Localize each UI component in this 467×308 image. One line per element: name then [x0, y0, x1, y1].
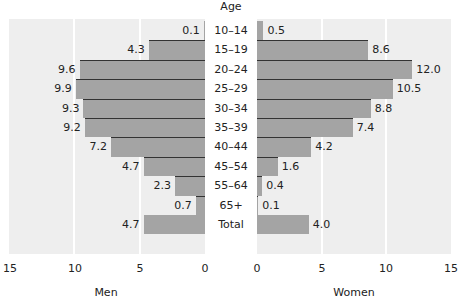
women-bar	[257, 99, 371, 118]
men-bar	[149, 40, 205, 59]
age-axis-title: Age	[205, 0, 257, 14]
women-bar	[257, 21, 263, 40]
women-bar	[257, 60, 412, 79]
men-value-label: 4.3	[127, 40, 145, 59]
x-tick-label-men: 0	[190, 262, 220, 275]
x-tick-label-women: 10	[371, 262, 401, 275]
men-bar	[83, 99, 205, 118]
age-group-label: 35–39	[205, 118, 257, 137]
men-value-label: 4.7	[122, 215, 140, 234]
women-value-label: 4.2	[315, 137, 333, 156]
age-group-label: 30–34	[205, 99, 257, 118]
men-value-label: 2.3	[153, 176, 171, 195]
women-bar	[257, 215, 309, 234]
men-value-label: 7.2	[89, 137, 107, 156]
men-bar	[85, 118, 205, 137]
women-value-label: 1.6	[282, 157, 300, 176]
men-bar	[144, 215, 205, 234]
age-group-label: 10–14	[205, 21, 257, 40]
men-bar	[196, 196, 205, 215]
x-tick-label-women: 15	[436, 262, 466, 275]
age-group-label: 25–29	[205, 79, 257, 98]
men-bar	[144, 157, 205, 176]
women-bar	[257, 196, 258, 215]
men-value-label: 0.7	[174, 196, 192, 215]
women-value-label: 0.4	[266, 176, 284, 195]
age-group-label: Total	[205, 215, 257, 234]
women-bar	[257, 157, 278, 176]
age-group-label: 55–64	[205, 176, 257, 195]
men-bar	[80, 60, 205, 79]
men-axis-title: Men	[66, 286, 146, 299]
men-value-label: 9.9	[54, 79, 72, 98]
women-value-label: 7.4	[357, 118, 375, 137]
x-tick-label-women: 0	[242, 262, 272, 275]
age-group-label: 15–19	[205, 40, 257, 59]
women-axis-title: Women	[314, 286, 394, 299]
x-tick-label-men: 10	[60, 262, 90, 275]
men-value-label: 9.6	[58, 60, 76, 79]
men-bar	[111, 137, 205, 156]
age-group-label: 65+	[205, 196, 257, 215]
women-value-label: 0.5	[267, 21, 285, 40]
women-value-label: 10.5	[397, 79, 422, 98]
men-bar	[76, 79, 205, 98]
women-value-label: 8.8	[375, 99, 393, 118]
men-value-label: 0.1	[182, 21, 200, 40]
women-value-label: 4.0	[313, 215, 331, 234]
age-group-label: 20–24	[205, 60, 257, 79]
women-bar	[257, 176, 262, 195]
men-value-label: 4.7	[122, 157, 140, 176]
men-bar	[175, 176, 205, 195]
women-value-label: 12.0	[416, 60, 441, 79]
women-value-label: 0.1	[262, 196, 280, 215]
x-tick-label-women: 5	[307, 262, 337, 275]
age-group-label: 45–54	[205, 157, 257, 176]
x-tick-label-men: 15	[0, 262, 25, 275]
population-pyramid-chart: Age Men Women 0.10.510–144.38.615–199.61…	[0, 0, 467, 308]
women-bar	[257, 118, 353, 137]
women-bar	[257, 137, 311, 156]
men-value-label: 9.2	[63, 118, 81, 137]
women-value-label: 8.6	[372, 40, 390, 59]
men-value-label: 9.3	[62, 99, 80, 118]
women-bar	[257, 40, 368, 59]
x-tick-label-men: 5	[125, 262, 155, 275]
age-group-label: 40–44	[205, 137, 257, 156]
women-bar	[257, 79, 393, 98]
